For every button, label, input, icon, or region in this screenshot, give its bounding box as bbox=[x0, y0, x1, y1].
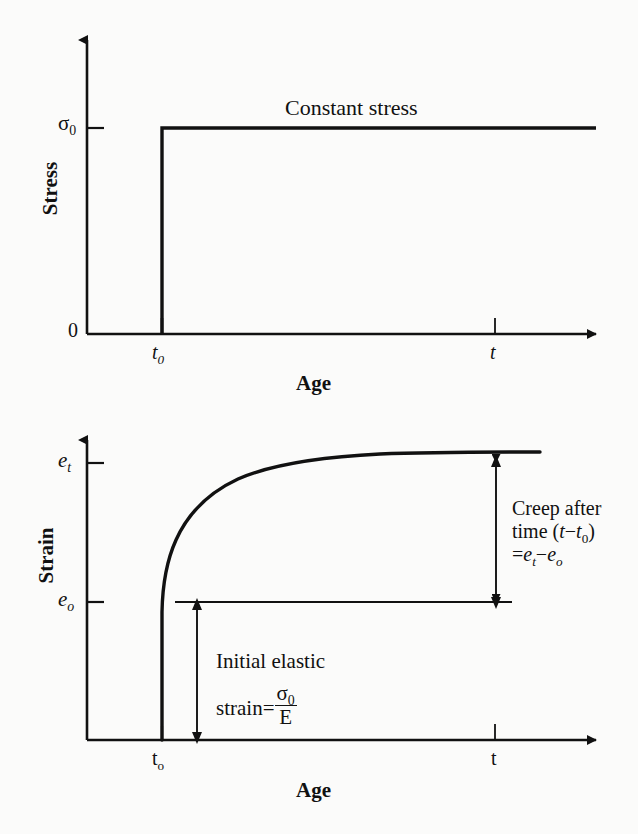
elastic-arrow-head-down bbox=[192, 732, 202, 744]
stress-ytick-label-sigma0: σ0 bbox=[58, 113, 76, 134]
stress-xtick-label-t: t bbox=[490, 342, 496, 362]
elastic-arrow-head-up bbox=[192, 598, 202, 610]
stress-ytick-label-zero: 0 bbox=[68, 320, 78, 340]
creep-line-2: time (t−t0) bbox=[512, 520, 601, 543]
stress-step-curve bbox=[162, 128, 596, 334]
creep-arrow-head-down bbox=[491, 597, 501, 609]
creep-after-time-annotation: Creep after time (t−t0) =et−eo bbox=[512, 497, 601, 565]
creep-line-3: =et−eo bbox=[512, 543, 601, 566]
creep-line-1: Creep after bbox=[512, 497, 601, 520]
fraction-numerator: σ0 bbox=[275, 683, 297, 706]
strain-ytick-label-eo: eo bbox=[58, 589, 74, 610]
strain-y-axis-title: Strain bbox=[36, 512, 57, 600]
strain-xtick-label-t0: to bbox=[152, 748, 164, 768]
stress-data-line bbox=[162, 128, 596, 334]
elastic-strain-dimension-arrow bbox=[192, 598, 202, 744]
constant-stress-annotation: Constant stress bbox=[285, 97, 418, 119]
strain-xtick-label-t: t bbox=[491, 748, 497, 768]
initial-elastic-line-2: strain=σ0E bbox=[216, 683, 325, 729]
initial-elastic-strain-annotation: Initial elastic strain=σ0E bbox=[216, 651, 325, 729]
stress-x-axis-title: Age bbox=[296, 373, 331, 394]
stress-xtick-label-t0: t0 bbox=[152, 342, 164, 362]
fraction-denominator: E bbox=[275, 706, 297, 728]
stress-y-axis-title: Stress bbox=[40, 145, 61, 233]
figure-page: σ0 0 t0 t Stress Age Constant stress et … bbox=[0, 0, 638, 834]
strain-ytick-label-et: et bbox=[58, 450, 71, 471]
creep-dimension-arrow bbox=[491, 455, 501, 609]
strain-x-axis-title: Age bbox=[296, 780, 331, 801]
creep-arrow-head-up bbox=[491, 455, 501, 467]
initial-elastic-line-1: Initial elastic bbox=[216, 651, 325, 672]
sigma-over-E-fraction: σ0E bbox=[275, 683, 297, 729]
